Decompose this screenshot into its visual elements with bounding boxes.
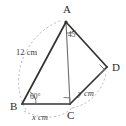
vertex-label-c: C (67, 109, 74, 121)
geometry-canvas: A B C D 12 cm x cm y cm 60° 45 (0, 0, 126, 126)
side-ab-length-label: 12 cm (16, 47, 37, 57)
angle-label-a: 45 (68, 30, 76, 39)
vertex-label-a: A (63, 3, 71, 15)
segment-ab-line (22, 22, 66, 104)
geometry-figure: A B C D 12 cm x cm y cm 60° 45 (0, 0, 126, 126)
vertex-dot-a (64, 20, 67, 23)
vertex-label-b: B (10, 100, 17, 112)
side-cd-length-label: y cm (77, 88, 94, 98)
angle-label-b: 60° (30, 92, 41, 101)
right-angle-mark-c-icon (64, 98, 70, 105)
segment-ad-line (66, 22, 107, 67)
side-bc-length-label: x cm (31, 112, 48, 122)
vertex-label-d: D (112, 61, 120, 73)
guide-arcs-group (19, 20, 106, 117)
